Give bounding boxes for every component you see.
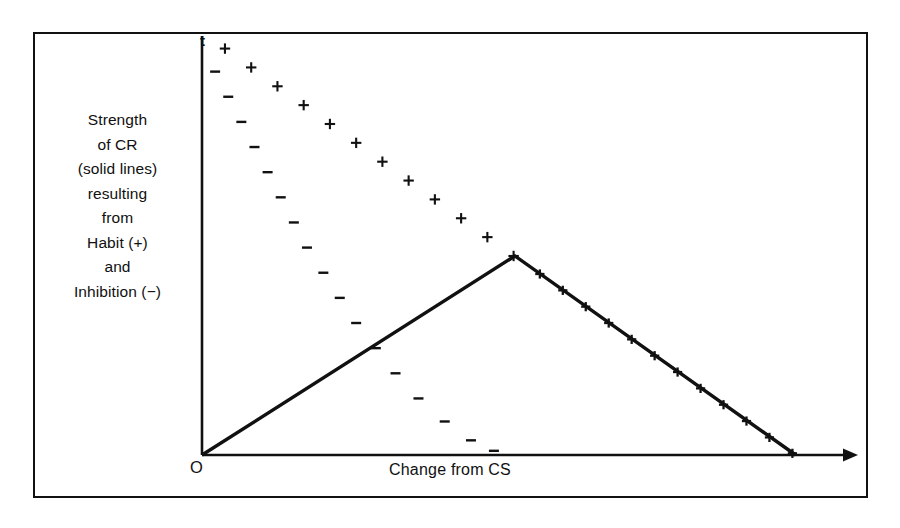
habit-plus-marker <box>325 119 335 129</box>
series-inhibition-minus-markers <box>210 72 499 451</box>
net-cr-curve-path <box>202 256 796 455</box>
figure-root: Strength of CR (solid lines) resulting f… <box>0 0 900 528</box>
habit-plus-marker <box>298 100 308 110</box>
habit-plus-marker <box>403 175 413 185</box>
habit-plus-marker <box>246 62 256 72</box>
x-axis-arrow-icon <box>843 449 858 462</box>
habit-plus-marker <box>377 157 387 167</box>
habit-plus-marker <box>351 138 361 148</box>
habit-plus-marker <box>456 213 466 223</box>
habit-plus-marker <box>220 43 230 53</box>
series-net-cr-curve <box>202 256 796 455</box>
habit-plus-marker <box>430 194 440 204</box>
series-habit-plus-markers <box>220 43 519 261</box>
axes-group <box>202 36 858 462</box>
y-axis-top-label: t <box>200 32 205 49</box>
x-axis-label: Change from CS <box>0 461 900 479</box>
plot-area <box>0 0 900 528</box>
habit-plus-marker <box>272 81 282 91</box>
habit-plus-marker <box>482 232 492 242</box>
